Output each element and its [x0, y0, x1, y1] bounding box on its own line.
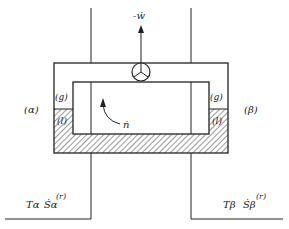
- gas-label-right: (g): [210, 92, 223, 102]
- turbine-icon: [132, 63, 150, 81]
- right-entropy-sup: (r): [256, 192, 266, 201]
- liquid-label-left: (l): [57, 116, 67, 126]
- right-temp-label: Tβ: [223, 199, 236, 210]
- right-reservoir-label: (β): [244, 104, 258, 115]
- work-arrow: [138, 25, 144, 63]
- right-entropy-label: Ṡβ: [243, 199, 256, 210]
- left-temp-label: Tα: [26, 199, 40, 210]
- left-reservoir-label: (α): [24, 104, 39, 115]
- inner-cavity: [73, 82, 209, 134]
- gas-label-left: (g): [55, 92, 68, 102]
- left-entropy-sup: (r): [56, 192, 66, 201]
- work-label: -ẇ: [133, 10, 145, 21]
- liquid-label-right: (l): [212, 116, 222, 126]
- heat-engine-diagram: -ẇ ṅ (g) (g) (l) (l) (α) (β) Tα Ṡα (r) T…: [0, 0, 289, 229]
- flow-label: ṅ: [123, 119, 129, 130]
